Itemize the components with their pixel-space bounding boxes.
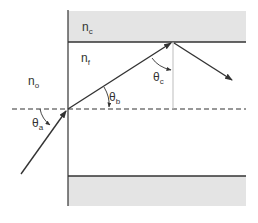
- label-n-f: nf: [81, 51, 91, 67]
- label-theta-a: θa: [32, 116, 44, 132]
- waveguide-diagram: nc nf no θa θb θc: [0, 0, 258, 223]
- angle-arc-theta-c: [152, 58, 171, 70]
- label-theta-b: θb: [109, 90, 121, 106]
- incident-ray: [21, 111, 66, 174]
- reflected-ray: [174, 43, 232, 80]
- label-n-o: no: [28, 74, 40, 90]
- lower-cladding: [68, 176, 246, 206]
- label-theta-c: θc: [153, 70, 164, 86]
- upper-cladding: [68, 11, 246, 42]
